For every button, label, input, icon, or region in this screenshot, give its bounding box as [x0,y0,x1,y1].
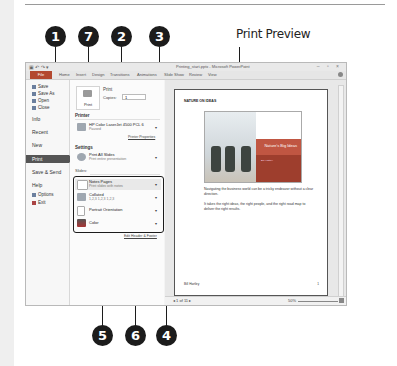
color-dropdown[interactable]: Color ▾ [75,218,161,229]
backstage-recent[interactable]: Recent [32,129,48,135]
tab-view[interactable]: View [208,72,217,77]
quick-access-toolbar[interactable]: ▣ ↶ ↷ ▾ [29,64,49,70]
backstage-new[interactable]: New [32,142,42,148]
backstage-nav: Save Save As Open Close Info Recent New … [26,80,70,305]
page-footer-left: Bill Hartley [184,282,199,286]
chevron-down-icon: ▾ [155,155,157,160]
zoom-slider[interactable] [298,301,338,302]
preview-scrollbar[interactable] [338,85,344,297]
chevron-down-icon: ▾ [155,221,157,226]
layout-dropdown[interactable]: Notes Pages Print slides with notes ▾ [75,179,161,190]
edit-header-footer-link[interactable]: Edit Header & Footer [124,234,157,238]
tab-review[interactable]: Review [189,72,202,77]
title-bar: ▣ ↶ ↷ ▾ Printing_start.pptx - Microsoft … [26,63,346,71]
printer-icon [83,90,92,97]
collated-icon [77,193,86,201]
page-navigator[interactable]: ◂ 1 of 11 ▸ [173,298,191,303]
print-preview-label: Print Preview [236,27,310,41]
copies-stepper[interactable]: 1 [122,94,146,100]
slides-input[interactable] [90,174,160,175]
tab-slide-show[interactable]: Slide Show [164,72,184,77]
callout-4: 4 [156,325,177,346]
print-settings-pane: Print Print Copies: 1 Printer HP Color L… [70,80,164,305]
backstage-open[interactable]: Open [32,98,49,103]
exit-icon [32,201,36,205]
collation-dropdown[interactable]: Collated 1,2,3 1,2,3 1,2,3 ▾ [75,192,161,203]
preview-status-bar: ◂ 1 of 11 ▸ 50% [165,296,346,305]
chevron-down-icon: ▾ [155,195,157,200]
ribbon-tabs: File Home Insert Design Transitions Anim… [26,71,346,80]
callout-5: 5 [92,325,113,346]
backstage-exit[interactable]: Exit [32,200,46,205]
slides-icon [77,153,86,161]
chevron-down-icon: ▾ [155,208,157,213]
zoom-to-page-icon[interactable] [339,298,344,303]
callout-3: 3 [149,26,170,47]
page-number: 1 [317,282,319,286]
printer-heading: Printer [75,113,90,118]
preview-page: NATURE ON IDEAS Nature's Big Ideas Bill … [174,89,328,296]
color-icon [77,219,86,227]
backstage-help[interactable]: Help [32,182,42,188]
slide-image-part [211,146,221,172]
chevron-down-icon: ▾ [155,125,157,130]
divider [75,119,160,120]
window-controls[interactable]: – ▫ × [317,63,342,69]
backstage-save[interactable]: Save [32,84,48,89]
close-icon [32,106,36,110]
callout-1: 1 [45,26,66,47]
callout-7: 7 [78,26,99,47]
left-margin-strip [0,0,14,366]
backstage-close[interactable]: Close [32,105,50,110]
print-preview-pane: NATURE ON IDEAS Nature's Big Ideas Bill … [165,80,346,305]
portrait-icon [77,206,85,216]
tab-animations[interactable]: Animations [137,72,157,77]
tab-home[interactable]: Home [59,72,70,77]
slide-subtitle: Bill Hartley [261,159,273,162]
powerpoint-window: ▣ ↶ ↷ ▾ Printing_start.pptx - Microsoft … [25,62,347,306]
notes-page-icon [77,180,88,190]
slide-image-part [241,146,251,172]
slide-image-part [225,146,235,172]
open-icon [32,99,36,103]
backstage-options[interactable]: Options [32,192,54,197]
save-as-icon [32,92,36,96]
print-heading: Print [103,87,112,92]
tab-transitions[interactable]: Transitions [110,72,129,77]
window-title: Printing_start.pptx - Microsoft PowerPoi… [176,64,250,69]
backstage-save-as[interactable]: Save As [32,91,55,96]
save-icon [32,85,36,89]
backstage-info[interactable]: Info [32,116,40,122]
printer-icon [77,123,86,131]
printer-properties-link[interactable]: Printer Properties [128,135,155,139]
help-icon[interactable] [338,72,343,77]
orientation-dropdown[interactable]: Portrait Orientation ▾ [75,205,161,216]
tab-design[interactable]: Design [92,72,104,77]
backstage-save-send[interactable]: Save & Send [32,169,61,175]
slide-title: Nature's Big Ideas [264,143,297,148]
print-button[interactable]: Print [76,86,100,110]
top-rule [25,4,385,5]
slide-thumbnail: Nature's Big Ideas Bill Hartley [204,111,302,183]
slides-label: Slides: [75,168,87,173]
printer-dropdown[interactable]: HP Color LaserJet 4500 PCL 6 Paused ▾ [75,122,161,133]
settings-heading: Settings [75,145,93,150]
chevron-down-icon: ▾ [155,182,157,187]
notes-paragraph-2: It takes the right ideas, the right peop… [204,202,314,212]
callout-2: 2 [111,26,132,47]
callout-6: 6 [125,325,146,346]
notes-paragraph-1: Navigating the business world can be a t… [204,187,314,197]
tab-insert[interactable]: Insert [76,72,86,77]
zoom-level: 50% [288,298,296,303]
tab-file[interactable]: File [30,71,52,79]
backstage-print[interactable]: Print [26,155,69,163]
options-icon [32,193,36,197]
copies-label: Copies: [103,95,117,100]
slides-range-dropdown[interactable]: Print All Slides Print entire presentati… [75,152,161,163]
page-header: NATURE ON IDEAS [184,99,216,103]
